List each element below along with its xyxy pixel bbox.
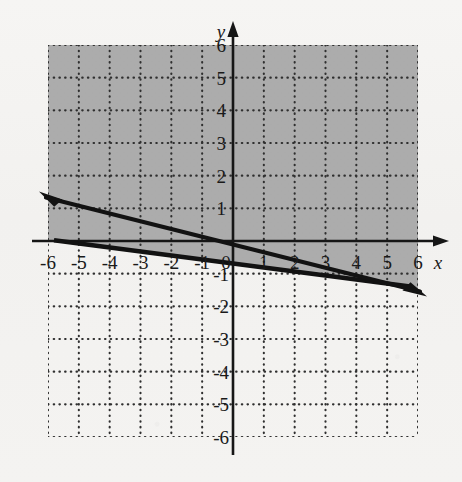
y-tick-label: -1 bbox=[213, 264, 229, 285]
coordinate-plane-svg: -6 -5 -4 -3 -2 -1 0 1 2 3 4 5 6 6 5 4 3 … bbox=[0, 0, 462, 482]
y-tick-label: -5 bbox=[213, 394, 229, 415]
y-tick-label: 5 bbox=[217, 68, 227, 89]
y-tick-label: 4 bbox=[217, 100, 227, 121]
y-tick-label: 1 bbox=[217, 198, 227, 219]
x-tick-label: 4 bbox=[352, 252, 362, 273]
x-tick-label: 3 bbox=[321, 252, 331, 273]
x-tick-label: -3 bbox=[133, 252, 149, 273]
x-axis-label: x bbox=[433, 252, 443, 273]
x-tick-label: 1 bbox=[259, 252, 269, 273]
x-tick-label: -1 bbox=[194, 252, 210, 273]
y-tick-label: -6 bbox=[213, 427, 229, 448]
x-axis-arrowhead bbox=[433, 235, 449, 246]
y-tick-label: -4 bbox=[213, 362, 229, 383]
x-tick-label: -6 bbox=[40, 252, 56, 273]
graph-figure: -6 -5 -4 -3 -2 -1 0 1 2 3 4 5 6 6 5 4 3 … bbox=[0, 0, 462, 482]
y-tick-label: -2 bbox=[213, 296, 229, 317]
x-tick-label: -5 bbox=[71, 252, 87, 273]
y-tick-label: 3 bbox=[217, 133, 227, 154]
x-tick-label: 2 bbox=[290, 252, 300, 273]
x-tick-label: -4 bbox=[102, 252, 118, 273]
x-tick-label: 5 bbox=[382, 252, 392, 273]
x-tick-label: -2 bbox=[163, 252, 179, 273]
y-tick-label: -3 bbox=[213, 329, 229, 350]
y-axis-arrowhead bbox=[227, 21, 238, 37]
y-tick-label: 2 bbox=[217, 166, 227, 187]
y-axis-label: y bbox=[215, 21, 226, 42]
x-tick-label: 6 bbox=[413, 252, 423, 273]
